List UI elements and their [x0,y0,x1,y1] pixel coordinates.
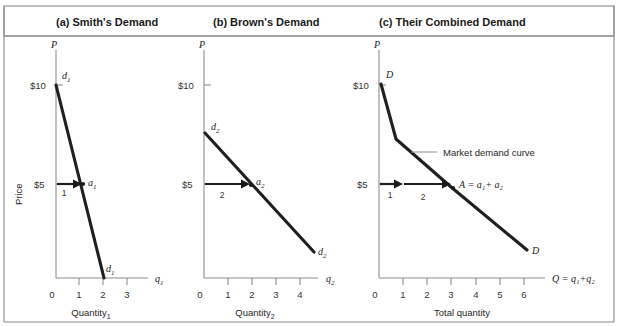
panel-b-curve-label-bottom: d2 [318,246,327,260]
figure-container: (a) Smith's Demand (b) Brown's Demand (c… [0,0,618,326]
panel-a-point-a1 [81,182,85,186]
panel-a-x-label-3: 3 [124,289,129,300]
panel-c-point-label: A = a₁+ a₂ [458,179,503,190]
panel-a-y-label-10: $10 [30,80,46,91]
panel-a-curve-label-bottom: d1 [106,263,115,277]
panel-a-y-axis-name: Price [13,183,24,205]
panel-c-x-axis-expression: Q = q₁+q₂ [552,273,595,284]
panel-a-curve-label-top: d1 [62,70,71,84]
panel-a: Price P $10 $5 0 1 2 3 q1 Quantity1 d1 d… [13,39,164,320]
panel-c-y-label-5: $5 [357,179,368,190]
panel-a-x-label-2: 2 [100,289,105,300]
panel-b-x-label-4: 4 [297,289,302,300]
panel-a-x-axis-symbol: q1 [155,273,164,287]
panel-b-x-label-1: 1 [225,289,230,300]
panel-c: P $10 $5 0 1 2 3 4 5 6 Q = q₁+q₂ Total q… [353,39,595,318]
panel-b-arrow-label: 2 [220,190,225,200]
panel-a-y-axis-symbol: P [50,39,57,50]
panel-c-arrow2-label: 2 [421,192,426,202]
panel-c-arrow1-label: 1 [388,190,393,200]
panel-c-y-axis-symbol: P [373,39,380,50]
panel-c-arrow1-head [394,180,403,189]
panel-b-x-axis-title: Quantity2 [235,307,274,320]
panel-c-x-label-5: 5 [497,289,502,300]
panel-c-point-A [451,186,455,190]
panel-c-y-label-10: $10 [353,80,369,91]
panel-a-arrow-label: 1 [62,188,67,198]
panel-a-x-label-1: 1 [76,289,81,300]
panel-a-x-axis-title: Quantity1 [71,307,110,320]
panel-b: P $10 $5 0 1 2 3 4 q2 Quantity2 d2 d2 2 … [178,39,335,320]
panel-a-y-label-5: $5 [34,179,45,190]
panel-b-point-a2 [249,183,253,187]
panel-c-curve-label-top: D [385,69,394,80]
demand-curves-figure: (a) Smith's Demand (b) Brown's Demand (c… [0,0,618,326]
panel-b-x-label-0: 0 [197,289,202,300]
panel-c-x-label-0: 0 [372,289,377,300]
panel-a-title: (a) Smith's Demand [56,16,158,28]
panel-b-x-label-2: 2 [249,289,254,300]
panel-b-x-axis-symbol: q2 [326,273,335,287]
panel-c-x-axis-title: Total quantity [434,307,490,318]
panel-c-annotation-text: Market demand curve [443,147,535,158]
panel-a-demand-curve-d1 [56,85,104,278]
panel-c-title: (c) Their Combined Demand [379,16,526,28]
panel-a-x-label-0: 0 [49,289,54,300]
panel-c-x-label-4: 4 [473,289,478,300]
panel-b-title: (b) Brown's Demand [213,16,320,28]
panel-c-x-label-3: 3 [448,289,453,300]
panel-b-x-label-3: 3 [273,289,278,300]
panel-b-y-label-5: $5 [182,179,193,190]
panel-c-market-demand-curve [381,84,527,250]
panel-b-y-label-10: $10 [178,80,194,91]
panel-b-y-axis-symbol: P [198,39,205,50]
panel-c-x-label-6: 6 [521,289,526,300]
panel-b-curve-label-top: d2 [211,121,220,135]
panel-a-point-label: a1 [88,177,97,191]
panel-c-x-label-1: 1 [400,289,405,300]
panel-c-x-label-2: 2 [424,289,429,300]
panel-c-curve-label-bottom: D [531,245,540,256]
